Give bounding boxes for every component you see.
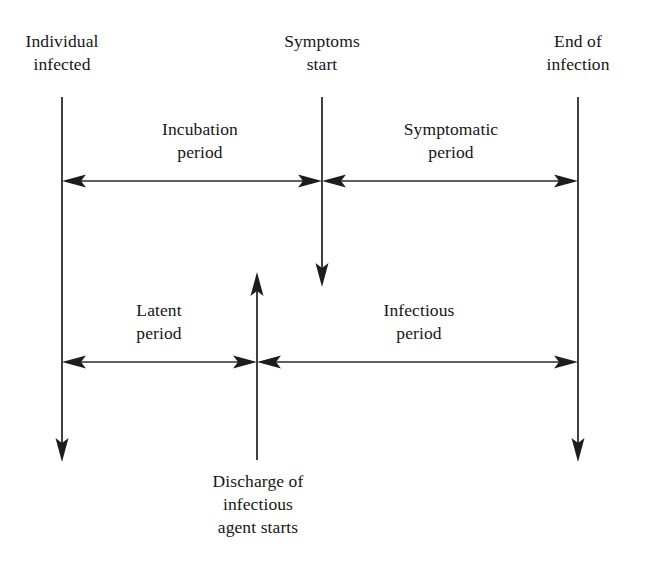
event-label-individual-infected: Individual infected [26,30,99,76]
diagram-vector-layer [0,0,646,562]
event-label-symptoms-start: Symptoms start [284,30,360,76]
event-label-discharge-of-infectious-agent-starts: Discharge of infectious agent starts [213,470,304,538]
period-label-symptomatic-period: Symptomatic period [404,118,498,164]
period-label-incubation-period: Incubation period [162,118,238,164]
measure-arrow-latent-period [62,356,257,369]
timeline-symptoms-start [316,97,329,287]
measure-arrow-symptomatic-period [322,175,578,188]
measure-arrow-infectious-period [257,356,578,369]
timeline-end-of-infection [572,97,585,462]
diagram-canvas: Individual infected Symptoms start End o… [0,0,646,562]
timeline-individual-infected [56,97,69,462]
period-label-latent-period: Latent period [136,299,181,345]
measure-arrow-incubation-period [62,175,322,188]
timeline-discharge-of-infectious-agent-starts [251,272,264,460]
period-label-infectious-period: Infectious period [384,299,455,345]
event-label-end-of-infection: End of infection [546,30,609,76]
